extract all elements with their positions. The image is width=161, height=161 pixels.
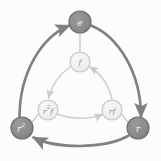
node-r2f[interactable]: r2f <box>38 100 58 120</box>
node-e[interactable]: e <box>69 11 91 33</box>
node-f[interactable]: f <box>70 52 90 72</box>
inner-edge-r2f-to-rf[interactable] <box>58 114 103 118</box>
node-r2[interactable]: r2 <box>11 117 33 139</box>
inner-node-group: f r2f rf <box>38 52 122 120</box>
outer-edge-r-to-r2[interactable] <box>34 136 129 146</box>
inner-edge-f-to-r2f[interactable] <box>49 67 71 99</box>
node-r-label: r <box>136 124 141 134</box>
graph-canvas: f r2f rf e <box>0 0 161 161</box>
cayley-graph-figure: f r2f rf e <box>0 0 161 161</box>
node-r[interactable]: r <box>127 117 149 139</box>
node-r2-circle[interactable] <box>11 117 33 139</box>
spoke-edge-r-rf[interactable] <box>122 114 129 123</box>
outer-node-group: e r2 r <box>11 11 149 139</box>
node-r2-sup: 2 <box>20 122 25 128</box>
spoke-edge-r2-r2f[interactable] <box>32 114 39 123</box>
node-rf[interactable]: rf <box>102 100 122 120</box>
node-e-label: e <box>77 18 82 28</box>
inner-edge-rf-to-f[interactable] <box>90 67 112 100</box>
